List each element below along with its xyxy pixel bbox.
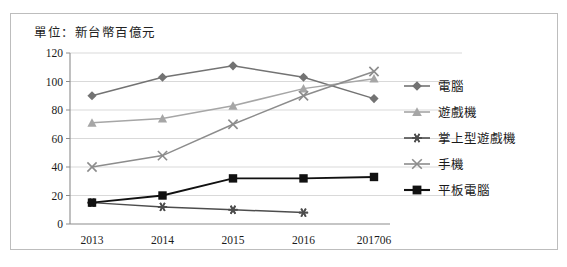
gridlines-group: [70, 53, 462, 196]
marker-shape: [299, 73, 308, 82]
diamond-marker: [412, 81, 422, 91]
square-marker: [370, 173, 378, 181]
marker-shape: [412, 81, 422, 91]
series-line: [92, 203, 304, 213]
y-tick-label: 60: [52, 133, 64, 145]
legend-label: 手機: [438, 157, 464, 172]
x-tick-label: 2014: [151, 234, 174, 246]
series-diamond: [87, 61, 378, 103]
y-tick-label: 0: [57, 218, 63, 230]
diamond-marker: [87, 91, 96, 100]
legend-item-3[interactable]: 掌上型遊戲機: [404, 131, 516, 146]
y-tick-label: 80: [52, 104, 64, 116]
diamond-marker: [228, 61, 237, 70]
line-chart-svg: 020406080100120 2013201420152016201706 電…: [0, 0, 567, 267]
legend-item-4[interactable]: 手機: [404, 157, 464, 172]
marker-shape: [370, 173, 378, 181]
legend-label: 遊戲機: [438, 105, 477, 120]
series-asterisk: [87, 199, 308, 217]
square-marker: [158, 191, 166, 199]
marker-shape: [369, 94, 378, 103]
marker-shape: [299, 174, 307, 182]
asterisk-marker: [412, 134, 422, 142]
series-line: [92, 66, 374, 99]
marker-shape: [87, 91, 96, 100]
y-tick-label: 100: [46, 76, 64, 88]
chart-canvas: 020406080100120 2013201420152016201706 電…: [0, 0, 567, 267]
legend-item-2[interactable]: 遊戲機: [404, 105, 477, 120]
square-marker: [413, 186, 422, 195]
legend-label: 電腦: [438, 79, 464, 94]
legend-group: 電腦遊戲機掌上型遊戲機手機平板電腦: [404, 79, 516, 198]
x-axis-ticks-group: 2013201420152016201706: [81, 234, 392, 246]
asterisk-marker: [228, 206, 237, 214]
marker-shape: [228, 61, 237, 70]
legend-label: 平板電腦: [438, 183, 490, 198]
series-square: [88, 173, 378, 207]
x-tick-label: 2016: [292, 234, 315, 246]
marker-shape: [158, 191, 166, 199]
series-x: [87, 67, 378, 172]
legend-label: 掌上型遊戲機: [438, 131, 516, 146]
diamond-marker: [158, 73, 167, 82]
marker-shape: [88, 198, 96, 206]
square-marker: [299, 174, 307, 182]
x-tick-label: 2013: [81, 234, 104, 246]
series-line: [92, 72, 374, 167]
marker-shape: [413, 186, 422, 195]
diamond-marker: [369, 94, 378, 103]
square-marker: [229, 174, 237, 182]
y-axis-ticks-group: 020406080100120: [46, 47, 70, 230]
asterisk-marker: [158, 203, 167, 211]
marker-shape: [158, 73, 167, 82]
x-marker: [228, 120, 237, 129]
x-tick-label: 2015: [222, 234, 245, 246]
diamond-marker: [299, 73, 308, 82]
asterisk-marker: [299, 209, 308, 217]
y-tick-label: 120: [46, 47, 64, 59]
marker-shape: [229, 174, 237, 182]
x-tick-label: 201706: [357, 234, 392, 246]
y-tick-label: 40: [52, 161, 64, 173]
y-tick-label: 20: [52, 190, 64, 202]
square-marker: [88, 198, 96, 206]
